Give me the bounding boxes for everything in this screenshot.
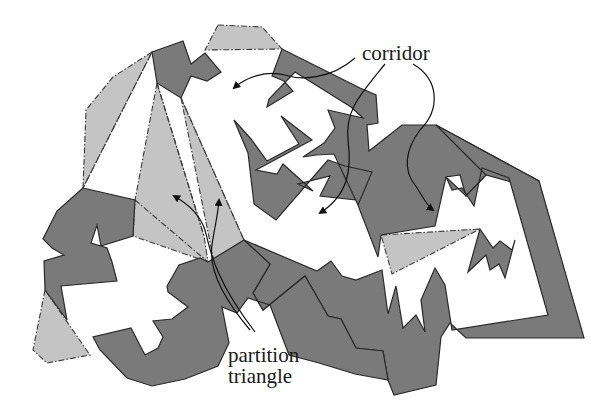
- obstacle-lightning: [468, 229, 515, 278]
- partition-triangle-right: [381, 229, 480, 274]
- obstacle-left: [43, 188, 135, 320]
- diagram-canvas: corridor partition triangle: [0, 0, 616, 408]
- obstacle-center-upper: [234, 49, 547, 257]
- partition-triangle-top: [205, 25, 282, 50]
- corridor-label: corridor: [362, 41, 430, 65]
- partition-label-line2: triangle: [228, 364, 292, 388]
